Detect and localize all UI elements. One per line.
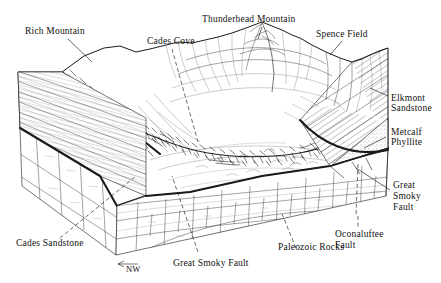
label-great-smoky-fault-right-line1: Great	[393, 180, 415, 190]
label-great-smoky-fault-front: Great Smoky Fault	[173, 258, 249, 268]
label-great-smoky-fault-right-line3: Fault	[393, 202, 414, 212]
label-rich-mountain: Rich Mountain	[25, 26, 85, 36]
label-direction-nw: NW	[126, 264, 141, 274]
block-diagram-figure: Rich Mountain Cades Cove Thunderhead Mou…	[0, 0, 441, 283]
label-elkmont-sandstone-line1: Elkmont	[391, 93, 425, 103]
label-great-smoky-fault-right-line2: Smoky	[393, 191, 421, 201]
label-cades-sandstone: Cades Sandstone	[16, 238, 84, 248]
label-metcalf-phyllite-line1: Metcalf	[391, 127, 423, 137]
label-paleozoic-rocks: Paleozoic Rocks	[278, 242, 344, 252]
label-spence-field: Spence Field	[316, 29, 368, 39]
label-elkmont-sandstone-line2: Sandstone	[391, 103, 432, 113]
label-oconaluftee-fault-line1: Oconaluftee	[335, 229, 384, 239]
label-cades-cove: Cades Cove	[147, 36, 195, 46]
label-thunderhead-mountain: Thunderhead Mountain	[202, 14, 295, 24]
label-metcalf-phyllite-line2: Phyllite	[391, 137, 422, 147]
diagram-canvas: Rich Mountain Cades Cove Thunderhead Mou…	[0, 0, 441, 283]
